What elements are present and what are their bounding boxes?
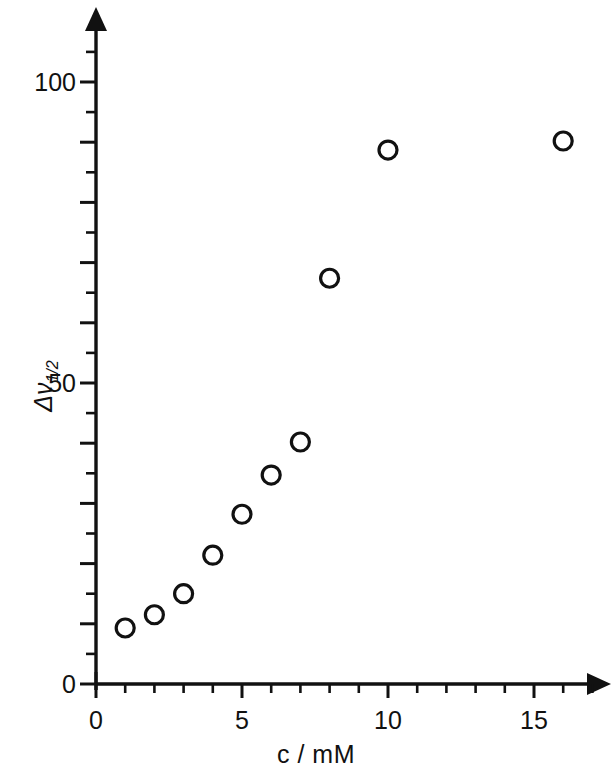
x-tick-label: 0 [89,708,103,733]
y-tick-label: 0 [20,672,76,697]
y-tick-label: 100 [20,70,76,95]
data-point-marker [204,546,222,564]
data-point-marker [233,505,251,523]
y-axis-title-subscript: 1/2 [44,360,61,382]
data-point-marker [554,132,572,150]
y-axis-arrow-icon [85,7,107,31]
axes-group [85,7,611,695]
x-axis-arrow-icon [587,673,611,695]
data-markers-group [116,132,572,637]
plot-canvas [0,0,611,778]
data-point-marker [321,269,339,287]
data-point-marker [175,585,193,603]
data-point-marker [379,141,397,159]
x-tick-label: 10 [374,708,402,733]
y-axis-title: Δν1/2 [12,355,74,417]
x-tick-label: 15 [520,708,548,733]
data-point-marker [116,619,134,637]
scatter-chart-figure: 051015050100 c / mM Δν1/2 [0,0,611,778]
x-axis-title: c / mM [277,740,355,769]
y-axis-title-main: Δν [29,382,57,411]
data-point-marker [145,606,163,624]
data-point-marker [291,433,309,451]
ticks-group [80,52,592,698]
x-tick-label: 5 [235,708,249,733]
data-point-marker [262,466,280,484]
y-axis-title-text: Δν1/2 [12,355,84,417]
